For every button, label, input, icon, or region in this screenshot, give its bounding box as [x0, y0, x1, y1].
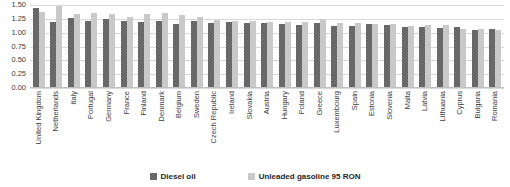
bar-group: [381, 5, 399, 88]
bar-group: [329, 5, 347, 88]
bar-group: [434, 5, 452, 88]
bar-gasoline: [250, 21, 256, 88]
bar-group: [206, 5, 224, 88]
x-axis-category-label: Portugal: [87, 91, 95, 119]
x-axis-category-label: Austria: [263, 91, 271, 114]
bar-group: [83, 5, 101, 88]
x-axis-label-cell: Czech Republic: [206, 90, 224, 158]
x-axis-category-label: Germany: [105, 91, 113, 122]
bar-group: [118, 5, 136, 88]
legend-item-gasoline[interactable]: Unleaded gasoline 95 RON: [248, 172, 361, 181]
bar-group: [487, 5, 505, 88]
x-axis-category-label: Czech Republic: [210, 91, 218, 144]
x-axis-category-label: Malta: [404, 91, 412, 109]
x-axis-category-label: France: [123, 91, 131, 114]
legend-item-diesel[interactable]: Diesel oil: [150, 172, 196, 181]
x-axis-category-label: Sweden: [193, 91, 201, 118]
bar-gasoline: [408, 26, 414, 88]
bar-gasoline: [460, 29, 466, 88]
x-axis-category-label: Hungary: [281, 91, 289, 119]
bar-gasoline: [56, 6, 62, 88]
bar-gasoline: [267, 22, 273, 88]
plot-area: [30, 5, 504, 88]
bar-group: [135, 5, 153, 88]
bar-group: [311, 5, 329, 88]
x-axis-category-label: Ireland: [228, 91, 236, 114]
x-axis-category-label: United Kingdom: [35, 91, 43, 144]
x-axis-category-label: Bulgaria: [474, 91, 482, 119]
chart-legend: Diesel oilUnleaded gasoline 95 RON: [0, 172, 510, 181]
gridline: [30, 88, 504, 89]
bar-gasoline: [443, 25, 449, 88]
bar-group: [399, 5, 417, 88]
x-axis-label-cell: Poland: [293, 90, 311, 158]
bar-gasoline: [197, 17, 203, 88]
x-axis-label-cell: Finland: [135, 90, 153, 158]
bar-group: [223, 5, 241, 88]
bar-gasoline: [144, 14, 150, 88]
x-axis-label-cell: Denmark: [153, 90, 171, 158]
bar-gasoline: [109, 14, 115, 88]
bar-group: [416, 5, 434, 88]
x-axis-label-cell: United Kingdom: [30, 90, 48, 158]
bar-gasoline: [39, 12, 45, 88]
x-axis-category-label: Spain: [351, 91, 359, 110]
x-axis-category-label: Latvia: [421, 91, 429, 111]
x-axis-category-label: Finland: [140, 91, 148, 116]
bar-group: [100, 5, 118, 88]
bar-group: [48, 5, 66, 88]
x-axis-category-label: Lithuania: [439, 91, 447, 121]
legend-swatch-icon: [150, 173, 157, 180]
bar-group: [241, 5, 259, 88]
x-axis-category-label: Cyprus: [456, 91, 464, 115]
bar-gasoline: [232, 21, 238, 89]
bar-group: [30, 5, 48, 88]
bar-gasoline: [390, 24, 396, 88]
bar-gasoline: [478, 29, 484, 88]
y-axis-tick-label: 1.00: [11, 29, 26, 37]
legend-label: Diesel oil: [161, 172, 196, 181]
bar-gasoline: [355, 23, 361, 88]
bar-group: [293, 5, 311, 88]
x-axis-label-cell: Portugal: [83, 90, 101, 158]
y-axis-tick-label: 0.50: [11, 56, 26, 64]
x-axis-label-cell: Sweden: [188, 90, 206, 158]
x-axis-label-cell: Belgium: [171, 90, 189, 158]
x-axis-category-label: Luxembourg: [333, 91, 341, 133]
x-axis-category-label: Greece: [316, 91, 324, 116]
x-axis-category-label: Poland: [298, 91, 306, 114]
bar-gasoline: [372, 24, 378, 88]
bar-gasoline: [162, 13, 168, 88]
legend-swatch-icon: [248, 173, 255, 180]
x-axis-label-cell: Cyprus: [452, 90, 470, 158]
bar-gasoline: [425, 25, 431, 88]
x-axis-label-cell: Slovenia: [381, 90, 399, 158]
y-axis-tick-label: 1.50: [11, 1, 26, 9]
bar-gasoline: [74, 14, 80, 88]
x-axis-label-cell: Spain: [346, 90, 364, 158]
bar-gasoline: [91, 13, 97, 88]
bar-group: [469, 5, 487, 88]
bar-gasoline: [302, 22, 308, 88]
x-axis-category-labels: United KingdomNetherlandsItalyPortugalGe…: [30, 90, 504, 158]
x-axis-line: [30, 87, 504, 88]
x-axis-label-cell: Netherlands: [48, 90, 66, 158]
x-axis-category-label: Slovenia: [386, 91, 394, 120]
y-axis-tick-label: 0.25: [11, 70, 26, 78]
x-axis-category-label: Denmark: [158, 91, 166, 121]
bar-group: [346, 5, 364, 88]
x-axis-label-cell: Malta: [399, 90, 417, 158]
bar-gasoline: [179, 15, 185, 88]
bar-group: [258, 5, 276, 88]
x-axis-label-cell: France: [118, 90, 136, 158]
bar-group: [188, 5, 206, 88]
bar-group: [452, 5, 470, 88]
bar-group: [171, 5, 189, 88]
bar-series-container: [30, 5, 504, 88]
x-axis-label-cell: Slovakia: [241, 90, 259, 158]
y-axis-tick-label: 0.75: [11, 43, 26, 51]
x-axis-label-cell: Germany: [100, 90, 118, 158]
x-axis-label-cell: Estonia: [364, 90, 382, 158]
x-axis-category-label: Estonia: [368, 91, 376, 116]
x-axis-category-label: Romania: [491, 91, 499, 121]
